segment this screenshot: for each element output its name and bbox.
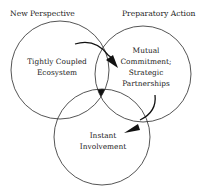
label-line: Involvement xyxy=(75,141,131,152)
venn-graphic xyxy=(0,0,203,196)
header-preparatory-action: Preparatory Action xyxy=(122,8,195,19)
label-line: Mutual xyxy=(118,45,174,56)
label-line: Ecosystem xyxy=(26,67,88,78)
label-tightly-coupled-ecosystem: Tightly Coupled Ecosystem xyxy=(26,56,88,78)
venn-diagram: New Perspective Preparatory Action Tight… xyxy=(0,0,203,196)
label-line: Partnerships xyxy=(118,78,174,89)
header-new-perspective: New Perspective xyxy=(10,8,75,19)
label-instant-involvement: Instant Involvement xyxy=(75,130,131,152)
label-mutual-commitment: Mutual Commitment; Strategic Partnership… xyxy=(118,45,174,89)
label-line: Commitment; xyxy=(118,56,174,67)
label-line: Tightly Coupled xyxy=(26,56,88,67)
label-line: Instant xyxy=(75,130,131,141)
label-line: Strategic xyxy=(118,67,174,78)
arrow-right-to-bottom-icon xyxy=(124,95,155,133)
